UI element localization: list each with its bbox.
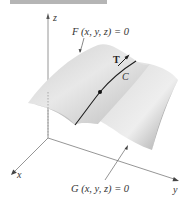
header-bar — [10, 0, 107, 4]
surface-intersection-diagram: z F (x, y, z) = 0 T C x y G (x, y, z) = … — [0, 0, 189, 204]
z-axis-label: z — [52, 12, 57, 23]
y-axis-label: y — [172, 184, 178, 195]
curve-label: C — [122, 71, 129, 82]
point-on-curve — [98, 90, 102, 94]
tangent-label: T — [113, 54, 120, 65]
surface-f-label: F (x, y, z) = 0 — [71, 26, 130, 38]
y-axis-arrow-icon — [173, 177, 180, 181]
surface-g-leader — [105, 148, 126, 180]
z-axis-arrow-icon — [46, 13, 49, 19]
x-axis-label: x — [16, 169, 22, 180]
y-axis — [48, 138, 179, 181]
surface-g-label: G (x, y, z) = 0 — [71, 183, 130, 195]
leader-arrow-icon — [79, 49, 82, 53]
